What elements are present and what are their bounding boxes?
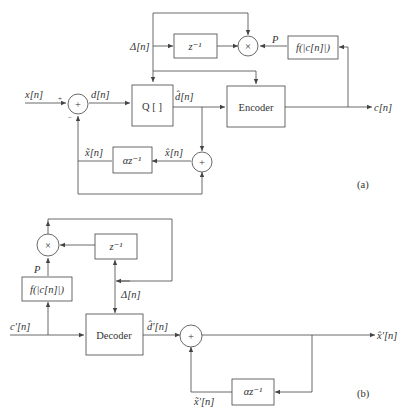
- label-c: c[n]: [374, 102, 392, 113]
- figure-b-label: (b): [357, 388, 370, 400]
- quantizer-label: Q [ ]: [142, 101, 162, 112]
- label-d: d[n]: [91, 89, 110, 100]
- sum-symbol-a2: +: [199, 157, 205, 168]
- label-xhat: x̂[n]: [164, 147, 183, 158]
- sum-symbol-b: +: [188, 331, 194, 342]
- mult-symbol-b: ×: [45, 240, 51, 251]
- predictor-label-a: αz⁻¹: [123, 155, 141, 166]
- label-delta-b: Δ[n]: [120, 289, 141, 300]
- mult-symbol-a: ×: [245, 41, 251, 52]
- delay-label-b: z⁻¹: [109, 241, 123, 252]
- label-x: x[n]: [24, 89, 43, 100]
- label-delta-a: Δ[n]: [129, 41, 150, 52]
- decoder-label: Decoder: [96, 330, 132, 341]
- f-label-a: f(|c[n]|): [296, 42, 330, 54]
- f-label-b: f(|c[n]|): [30, 284, 64, 296]
- figure-a-label: (a): [357, 179, 369, 191]
- predictor-label-b: αz⁻¹: [244, 386, 262, 397]
- figure-a: + × + x[n] + − d[n] Δ[n] z⁻¹ Q [ ] Encod…: [24, 13, 392, 194]
- diagram-canvas: + × + x[n] + − d[n] Δ[n] z⁻¹ Q [ ] Encod…: [0, 0, 405, 418]
- sum-symbol-a1: +: [75, 99, 81, 110]
- minus-sign: −: [68, 114, 72, 122]
- label-xtilde-prime: x̃′[n]: [193, 396, 214, 407]
- label-dhat: d̂[n]: [175, 90, 194, 102]
- label-P-a: P: [271, 34, 279, 45]
- adpcm-block-diagram: + × + x[n] + − d[n] Δ[n] z⁻¹ Q [ ] Encod…: [0, 0, 405, 418]
- delay-label-a: z⁻¹: [188, 41, 202, 52]
- label-dhat-prime: d̂′[n]: [147, 320, 168, 332]
- label-xtilde: x̃[n]: [84, 147, 103, 158]
- label-c-prime: c′[n]: [10, 321, 30, 332]
- label-xhat-prime: x̂′[n]: [376, 330, 397, 341]
- label-P-b: P: [33, 264, 41, 275]
- figure-b: × + z⁻¹ P f(|c[n]|) Δ[n] c′[n] Decoder d…: [10, 219, 397, 407]
- encoder-label: Encoder: [239, 102, 274, 113]
- plus-sign: +: [58, 95, 62, 103]
